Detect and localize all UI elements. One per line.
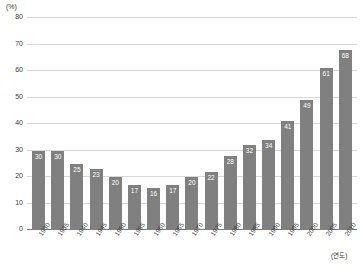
- bar-slot: 34: [259, 18, 278, 230]
- bar-slot: 16: [144, 18, 163, 230]
- bar-value-label: 17: [166, 187, 179, 195]
- bar-value-label: 41: [281, 123, 294, 131]
- x-label-slot: 2005: [317, 231, 336, 271]
- bar-slot: 17: [125, 18, 144, 230]
- plot-area: 01020304050607080 3030252320171617202228…: [27, 18, 357, 230]
- bar[interactable]: 30: [32, 151, 45, 231]
- bar-value-label: 34: [262, 142, 275, 150]
- bar[interactable]: 25: [70, 164, 83, 230]
- bar-slot: 49: [297, 18, 316, 230]
- x-label-slot: 1950: [106, 231, 125, 271]
- bar-slot: 25: [67, 18, 86, 230]
- bar[interactable]: 41: [281, 121, 294, 230]
- y-axis-tick-label: 20: [15, 172, 23, 180]
- x-label-slot: 1980: [221, 231, 240, 271]
- bar-value-label: 17: [128, 187, 141, 195]
- bar-value-label: 68: [339, 52, 352, 60]
- x-label-slot: 1995: [278, 231, 297, 271]
- bar-value-label: 49: [300, 102, 313, 110]
- x-label-slot: 1970: [182, 231, 201, 271]
- bar-slot: 20: [106, 18, 125, 230]
- bar-slot: 17: [163, 18, 182, 230]
- x-label-slot: 1955: [125, 231, 144, 271]
- y-axis-tick-label: 80: [15, 13, 23, 21]
- bar-slot: 30: [29, 18, 48, 230]
- bar-value-label: 30: [51, 153, 64, 161]
- bar[interactable]: 28: [224, 156, 237, 230]
- bar-value-label: 16: [147, 190, 160, 198]
- y-axis-tick-label: 50: [15, 93, 23, 101]
- x-label-slot: 1940: [67, 231, 86, 271]
- bar-value-label: 23: [90, 171, 103, 179]
- x-label-slot: 1930: [29, 231, 48, 271]
- x-label-slot: 1960: [144, 231, 163, 271]
- y-axis-tick-label: 0: [19, 225, 23, 233]
- bar-slot: 41: [278, 18, 297, 230]
- x-label-slot: 2000: [297, 231, 316, 271]
- bar[interactable]: 49: [300, 100, 313, 230]
- x-label-slot: 1965: [163, 231, 182, 271]
- bar-slot: 23: [87, 18, 106, 230]
- y-axis-tick-label: 40: [15, 119, 23, 127]
- bar[interactable]: 32: [243, 145, 256, 230]
- x-label-slot: 1990: [259, 231, 278, 271]
- bar-value-label: 32: [243, 147, 256, 155]
- bar[interactable]: 68: [339, 50, 352, 230]
- bar-slot: 30: [48, 18, 67, 230]
- y-axis-tick-label: 70: [15, 40, 23, 48]
- x-axis-labels-group: 1930193519401945195019551960196519701975…: [27, 231, 357, 271]
- y-axis-tick-label: 60: [15, 66, 23, 74]
- bar-value-label: 20: [109, 179, 122, 187]
- x-label-slot: 1975: [202, 231, 221, 271]
- bar-slot: 22: [202, 18, 221, 230]
- x-axis-unit-label: (연도): [331, 252, 347, 260]
- x-label-slot: 1945: [87, 231, 106, 271]
- bar-slot: 61: [317, 18, 336, 230]
- bar-chart: (%) 01020304050607080 303025232017161720…: [0, 0, 363, 276]
- bar-value-label: 22: [205, 174, 218, 182]
- bar-slot: 68: [336, 18, 355, 230]
- bar[interactable]: 30: [51, 151, 64, 231]
- x-label-slot: 1935: [48, 231, 67, 271]
- bar-value-label: 20: [185, 179, 198, 187]
- bar-value-label: 25: [70, 166, 83, 174]
- y-axis-tick-label: 10: [15, 199, 23, 207]
- bars-group: 3030252320171617202228323441496168: [27, 18, 357, 230]
- bar[interactable]: 61: [320, 68, 333, 230]
- bar-value-label: 61: [320, 70, 333, 78]
- x-label-slot: 1985: [240, 231, 259, 271]
- bar[interactable]: 23: [90, 169, 103, 230]
- x-label-slot: 2010: [336, 231, 355, 271]
- bar-slot: 28: [221, 18, 240, 230]
- y-axis-tick-label: 30: [15, 146, 23, 154]
- y-axis-unit-label: (%): [6, 2, 17, 11]
- bar-value-label: 30: [32, 153, 45, 161]
- bar-slot: 20: [182, 18, 201, 230]
- bar-slot: 32: [240, 18, 259, 230]
- bar[interactable]: 34: [262, 140, 275, 230]
- bar-value-label: 28: [224, 158, 237, 166]
